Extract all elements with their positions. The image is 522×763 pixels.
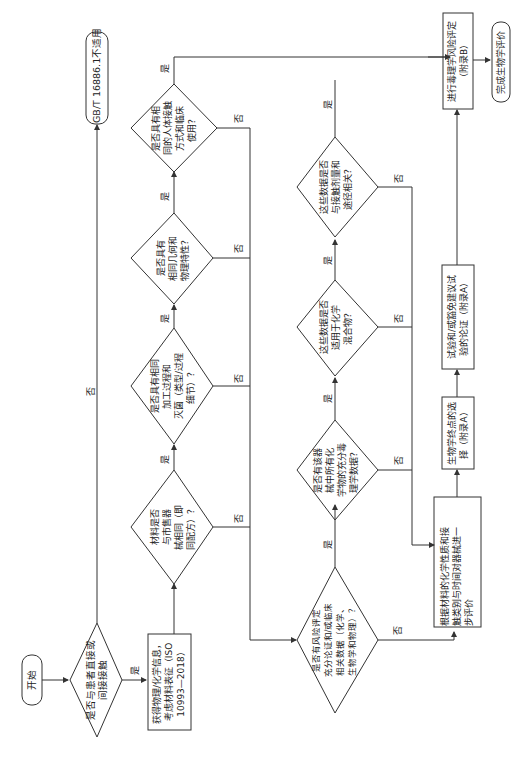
edge-label-contact-no: 否 [84, 387, 97, 396]
gbt-label: GB/T 16886.1不适用 [91, 33, 103, 123]
edge-label-contact-method-yes: 是 [158, 64, 171, 73]
start-label: 开始 [26, 655, 38, 705]
edge-label-process-no: 否 [232, 374, 245, 383]
edge-label-material-yes: 是 [158, 455, 171, 464]
edge-label-tox-yes: 是 [321, 394, 334, 403]
edge-label-risk-no: 否 [391, 626, 404, 635]
decision-contact-text: 是否与患者直接或 间接接触 [85, 635, 109, 725]
end-done-label: 完成生物学评价 [495, 22, 507, 102]
process-endpoints-text: 生物学终点的选 择（附录A） [446, 398, 470, 468]
edge-label-contact-yes: 是 [128, 666, 141, 675]
decision-same-contact-text: 是否具有相 同的人体接触 方式和临床 使用？ [150, 90, 198, 166]
process-evaluate-text: 根据材料的化学性质和接 触类别与时间对器械进一 步评价 [439, 498, 475, 626]
edge-label-dose-yes: 是 [321, 100, 334, 109]
edge-label-process-yes: 是 [158, 314, 171, 323]
decision-same-process-text: 是否具有相同 加工过程和 灭菌（类型/过程 细节）？ [149, 343, 197, 429]
edge-label-contact-method-no: 否 [232, 114, 245, 123]
edge-label-mixture-no: 否 [392, 314, 405, 323]
flowchart-connectors [0, 0, 522, 763]
decision-risk-data-text: 是否有风险评定 充分论证和/或临床 相关数据（化学、 生物学和物理）？ [310, 592, 358, 688]
process-tox-risk-text: 进行毒理学风险评定 （附录B） [446, 13, 470, 109]
edge-label-dose-no: 否 [392, 174, 405, 183]
decision-dose-route-text: 这些数据是否 与接触剂量和 途径相关？ [318, 150, 354, 224]
decision-tox-data-text: 是否有该器 械中所有化 学物的充分毒 理学数据？ [312, 434, 360, 506]
edge-label-tox-no: 否 [392, 456, 405, 465]
edge-label-geometry-yes: 是 [158, 192, 171, 201]
edge-label-geometry-no: 否 [232, 244, 245, 253]
decision-mixture-text: 这些数据是否 适用于化学 混合物？ [318, 293, 354, 361]
edge-label-material-no: 否 [232, 514, 245, 523]
process-characterize-text: 获得物理/化学信息， 考虑材料表征（ISO 10993—2018） [151, 634, 187, 730]
decision-same-geometry-text: 是否具有 相同几何和 物理特性？ [155, 225, 191, 291]
edge-label-mixture-yes: 是 [321, 256, 334, 265]
decision-same-material-text: 材料是否 与市售器 械相同（即 同配方）？ [149, 489, 197, 565]
edge-label-risk-yes: 是 [321, 540, 334, 549]
process-tests-text: 试验和/或豁免建议试 验的论证（附录A） [446, 266, 470, 368]
